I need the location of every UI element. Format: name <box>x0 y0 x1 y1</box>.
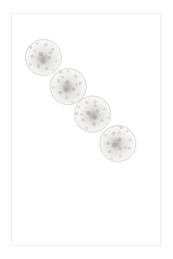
specimen-field <box>12 14 160 245</box>
paper-frame-border <box>11 13 161 246</box>
scanned-image-canvas: Four pale grey speckled spheres in a dia… <box>0 0 173 259</box>
